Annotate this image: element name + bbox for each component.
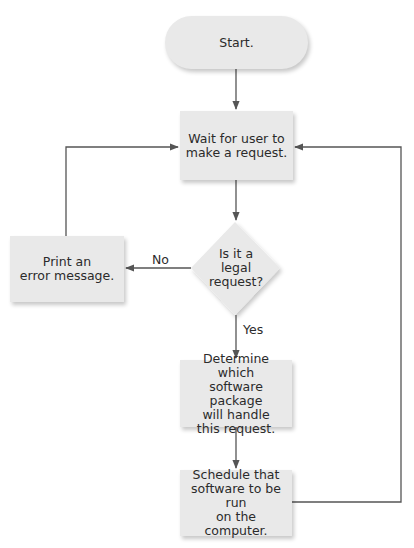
start-terminal: Start. <box>165 16 308 69</box>
wait-for-request-process: Wait for user to make a request. <box>180 111 293 180</box>
edge-label-no: No <box>152 252 169 267</box>
edge-schedule-to-wait <box>292 147 401 502</box>
edge-label-yes: Yes <box>243 322 263 337</box>
determine-software-process: Determine which software package will ha… <box>180 360 292 427</box>
print-error-process: Print an error message. <box>10 236 124 302</box>
schedule-software-process: Schedule that software to be run on the … <box>180 470 292 536</box>
edge-error-to-wait <box>66 147 178 236</box>
legal-request-decision-label: Is it a legal request? <box>200 238 272 298</box>
